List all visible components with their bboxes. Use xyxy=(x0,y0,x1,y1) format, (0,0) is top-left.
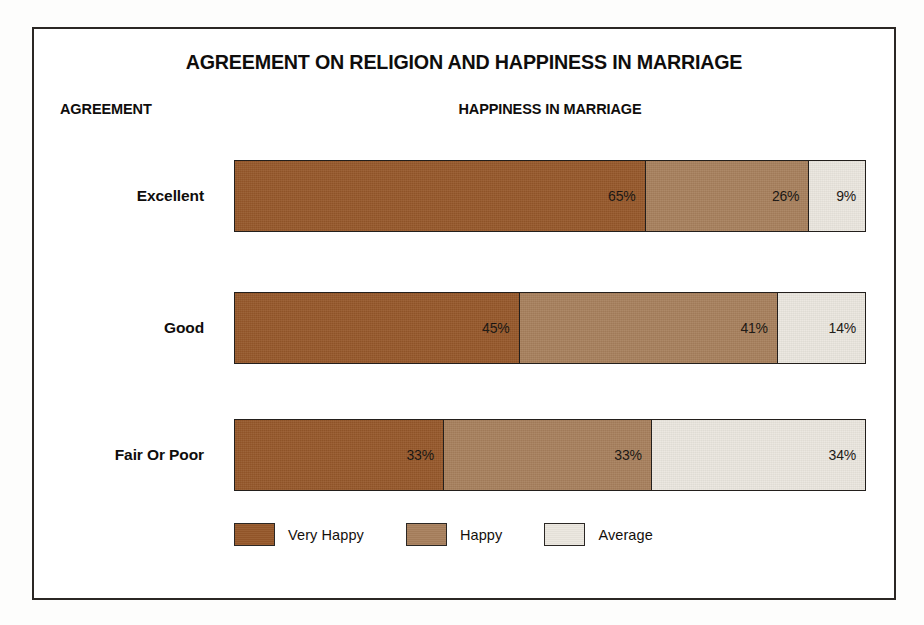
segment-value-label: 14% xyxy=(829,320,865,336)
bar-segment-average: 14% xyxy=(777,293,865,363)
bar-row: Good 45% 41% 14% xyxy=(34,292,894,364)
segment-value-label: 34% xyxy=(829,447,865,463)
bar-segment-average: 34% xyxy=(651,420,865,490)
chart-legend: Very Happy Happy Average xyxy=(234,523,866,546)
legend-label: Very Happy xyxy=(288,527,364,543)
segment-value-label: 33% xyxy=(406,447,442,463)
row-label-excellent: Excellent xyxy=(34,160,204,232)
segment-value-label: 33% xyxy=(614,447,650,463)
bar-segment-very-happy: 45% xyxy=(235,293,519,363)
bar-segment-very-happy: 33% xyxy=(235,420,443,490)
segment-value-label: 45% xyxy=(482,320,518,336)
legend-swatch-icon xyxy=(406,523,447,546)
legend-swatch-icon xyxy=(234,523,275,546)
stacked-bar-good: 45% 41% 14% xyxy=(234,292,866,364)
stacked-bar-excellent: 65% 26% 9% xyxy=(234,160,866,232)
legend-item-very-happy: Very Happy xyxy=(234,523,364,546)
legend-label: Happy xyxy=(460,527,502,543)
segment-value-label: 65% xyxy=(608,188,644,204)
segment-value-label: 26% xyxy=(772,188,808,204)
row-label-good: Good xyxy=(34,292,204,364)
legend-label: Average xyxy=(598,527,652,543)
bar-segment-happy: 41% xyxy=(519,293,777,363)
legend-item-happy: Happy xyxy=(406,523,502,546)
plot-area: Excellent 65% 26% 9% Good 45% xyxy=(34,29,894,598)
bar-segment-average: 9% xyxy=(808,161,865,231)
bar-segment-very-happy: 65% xyxy=(235,161,645,231)
row-label-fair-or-poor: Fair Or Poor xyxy=(34,419,204,491)
stacked-bar-fair-or-poor: 33% 33% 34% xyxy=(234,419,866,491)
segment-value-label: 41% xyxy=(740,320,776,336)
segment-value-label: 9% xyxy=(836,188,865,204)
bar-row: Fair Or Poor 33% 33% 34% xyxy=(34,419,894,491)
chart-figure: AGREEMENT ON RELIGION AND HAPPINESS IN M… xyxy=(32,27,896,600)
bar-row: Excellent 65% 26% 9% xyxy=(34,160,894,232)
bar-segment-happy: 26% xyxy=(645,161,809,231)
legend-item-average: Average xyxy=(544,523,652,546)
bar-segment-happy: 33% xyxy=(443,420,651,490)
legend-swatch-icon xyxy=(544,523,585,546)
